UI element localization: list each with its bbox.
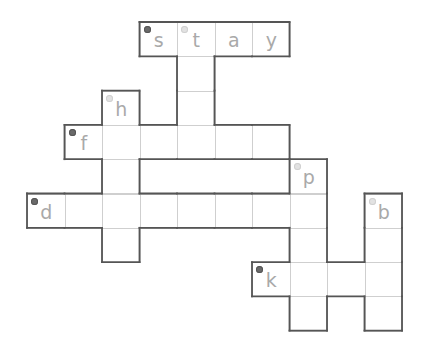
crossword-cell[interactable] <box>102 194 141 229</box>
crossword-cell[interactable] <box>290 194 329 229</box>
crossword-cell-h[interactable]: h <box>102 91 141 126</box>
cell-letter: p <box>291 164 328 190</box>
cell-letter: a <box>216 27 253 53</box>
crossword-cell[interactable] <box>365 228 404 263</box>
crossword-cell-a[interactable]: a <box>215 22 254 57</box>
crossword-cell-t[interactable]: t <box>177 22 216 57</box>
crossword-cell[interactable] <box>140 125 179 160</box>
crossword-cell[interactable] <box>252 194 291 229</box>
crossword-cell[interactable] <box>252 125 291 160</box>
cell-letter: d <box>28 199 65 225</box>
crossword-cell[interactable] <box>177 125 216 160</box>
crossword-cell-s[interactable]: s <box>140 22 179 57</box>
crossword-cell[interactable] <box>290 228 329 263</box>
crossword-cell-k[interactable]: k <box>252 262 291 297</box>
cell-letter: y <box>253 27 290 53</box>
crossword-cell-p[interactable]: p <box>290 159 329 194</box>
crossword-cell-d[interactable]: d <box>27 194 66 229</box>
crossword-board: stayhfpdbk <box>0 0 427 348</box>
crossword-cell[interactable] <box>102 125 141 160</box>
crossword-cell[interactable] <box>102 159 141 194</box>
cell-letter: s <box>141 27 178 53</box>
crossword-cell[interactable] <box>215 194 254 229</box>
crossword-cell-b[interactable]: b <box>365 194 404 229</box>
cell-letter: f <box>66 130 103 156</box>
crossword-cell[interactable] <box>215 125 254 160</box>
cell-letter: b <box>366 199 403 225</box>
crossword-cell[interactable] <box>327 262 366 297</box>
crossword-cell[interactable] <box>365 296 404 331</box>
crossword-cell-f[interactable]: f <box>65 125 104 160</box>
crossword-cell[interactable] <box>177 194 216 229</box>
crossword-cell[interactable] <box>140 194 179 229</box>
cell-letter: k <box>253 267 290 293</box>
crossword-cell[interactable] <box>290 296 329 331</box>
crossword-cell[interactable] <box>365 262 404 297</box>
crossword-cell[interactable] <box>177 56 216 91</box>
crossword-cell-y[interactable]: y <box>252 22 291 57</box>
crossword-cell[interactable] <box>290 262 329 297</box>
crossword-cell[interactable] <box>177 91 216 126</box>
cell-letter: t <box>178 27 215 53</box>
crossword-cell[interactable] <box>65 194 104 229</box>
crossword-cell[interactable] <box>102 228 141 263</box>
cell-letter: h <box>103 96 140 122</box>
